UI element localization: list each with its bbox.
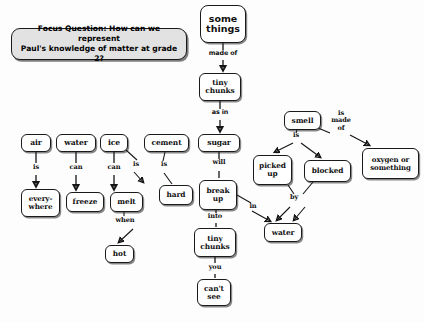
link-label-is-smell: is [289,132,303,139]
node-everywhere[interactable]: every- where [21,189,60,217]
connector-is-to-picked-up [275,143,293,152]
node-melt[interactable]: melt [110,192,143,212]
node-hard[interactable]: hard [159,185,193,205]
connector-ice-to-is-hard [126,150,137,160]
connector-by-to-water [277,207,290,220]
link-label-when: when [110,217,140,224]
connector-is-to-hard [164,173,172,184]
link-label-made-of: made of [201,50,245,57]
node-cant-see[interactable]: can't see [197,279,231,306]
node-tiny-chunks-lower[interactable]: tiny chunks [194,228,236,257]
node-hot[interactable]: hot [105,245,134,263]
node-picked-up[interactable]: picked up [253,155,292,185]
link-label-by: by [287,194,301,201]
node-blocked[interactable]: blocked [304,160,351,182]
node-oxygen-or-something[interactable]: oxygen or something [362,148,419,179]
node-air[interactable]: air [21,134,51,152]
link-label-can-ice: can [103,164,125,171]
link-label-is-ice-hard: is [129,161,143,168]
node-break-up[interactable]: break up [199,180,237,210]
connector-in-to-water [252,211,270,221]
node-freeze[interactable]: freeze [66,192,104,212]
connector-is-to-hard-left [134,172,143,182]
link-label-will: will [208,159,230,166]
connector-blocked-to-by [303,182,313,194]
node-sugar[interactable]: sugar [198,134,240,152]
connector-is-made-of-to-oxygen [350,135,369,145]
link-label-is-air: is [29,164,43,171]
focus-question-box: Focus Question: How can we represent Pau… [11,28,187,60]
node-water-top[interactable]: water [56,134,96,152]
node-cement[interactable]: cement [144,134,189,152]
link-label-as-in: as in [204,109,236,116]
node-water-bottom[interactable]: water [264,223,302,242]
link-label-in: in [246,203,260,210]
link-label-is-cement-hard: is [157,161,171,168]
link-label-can-water: can [65,164,87,171]
node-some-things[interactable]: some things [200,5,246,43]
link-label-you: you [204,264,226,271]
node-ice[interactable]: ice [100,134,128,152]
link-label-into: into [203,213,227,220]
node-tiny-chunks-upper[interactable]: tiny chunks [199,73,241,101]
connector-is-to-blocked [301,143,320,157]
connector-by-right-to-water [294,207,305,220]
link-label-is-made-of: is made of [329,110,353,132]
node-smell[interactable]: smell [284,111,321,130]
concept-map-canvas: Focus Question: How can we represent Pau… [0,0,424,323]
connector-when-to-hot [119,229,133,242]
